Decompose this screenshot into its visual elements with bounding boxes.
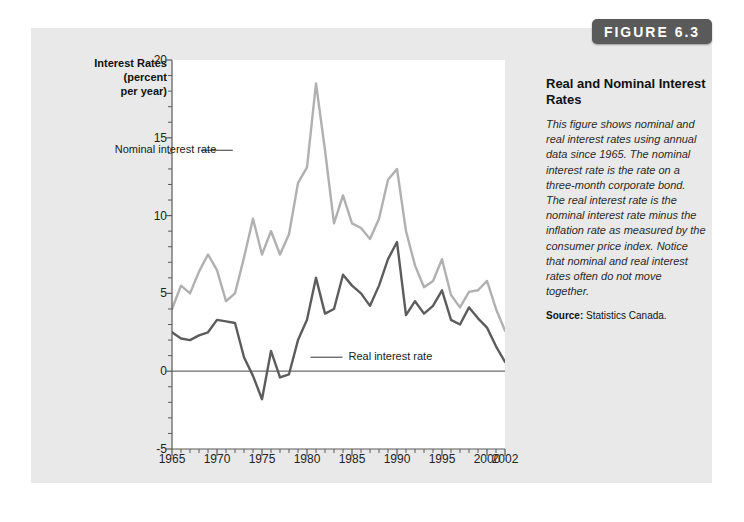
figure-caption: This figure shows nominal and real inter…: [546, 117, 706, 299]
series-label-nominal: Nominal interest rate: [115, 143, 217, 155]
figure-title: Real and Nominal Interest Rates: [546, 76, 706, 108]
series-label-real-text: Real interest rate: [349, 350, 433, 362]
series-label-real: Real interest rate: [349, 350, 433, 362]
figure-source: Source: Statistics Canada.: [546, 309, 706, 323]
figure-source-value: Statistics Canada.: [586, 310, 667, 321]
side-text-column: Real and Nominal Interest Rates This fig…: [546, 76, 706, 323]
figure-number-label: FIGURE 6.3: [604, 24, 700, 40]
figure-root: FIGURE 6.3 Interest Rates (percent per y…: [0, 0, 744, 522]
chart-container: Interest Rates (percent per year) 201510…: [31, 28, 531, 483]
figure-number-badge: FIGURE 6.3: [592, 19, 712, 44]
axis-svg: [151, 48, 531, 468]
figure-source-label: Source:: [546, 310, 583, 321]
series-label-nominal-text: Nominal interest rate: [115, 143, 217, 155]
